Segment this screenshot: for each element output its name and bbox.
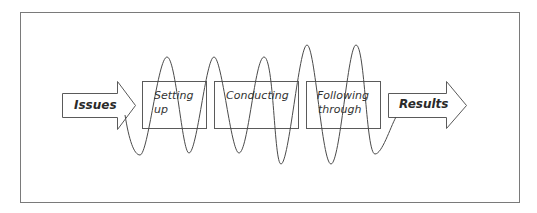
stage-label-conducting: Conducting — [226, 89, 289, 102]
stage-label-following-line2: through — [318, 103, 361, 116]
process-diagram: Issues Setting up Conducting Following t… — [0, 0, 537, 213]
stage-label-setting-up-line2: up — [154, 103, 168, 116]
stage-label-following-line1: Following — [317, 89, 369, 102]
results-label: Results — [399, 98, 448, 111]
stage-label-setting-up-line1: Setting — [154, 89, 193, 102]
issues-label: Issues — [74, 99, 117, 112]
